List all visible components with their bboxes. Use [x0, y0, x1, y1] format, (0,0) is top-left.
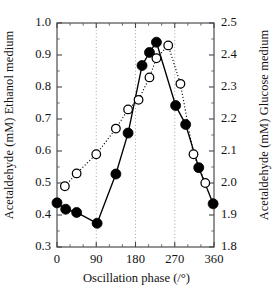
data-point-2	[164, 41, 173, 50]
data-point-1	[52, 198, 62, 208]
x-tick-label: 180	[121, 252, 151, 267]
data-point-1	[123, 128, 133, 138]
data-point-2	[201, 179, 210, 188]
data-point-1	[151, 37, 161, 47]
y-tick-label-right: 2.0	[221, 175, 251, 190]
data-point-2	[145, 73, 154, 82]
y-tick-label-left: 0.7	[21, 111, 51, 126]
y-tick-label-left: 0.5	[21, 175, 51, 190]
x-tick-label: 270	[160, 252, 190, 267]
y-tick-label-right: 2.4	[221, 47, 251, 62]
data-point-2	[72, 169, 81, 178]
data-point-1	[72, 207, 82, 217]
y-tick-label-left: 0.9	[21, 47, 51, 62]
x-tick-label: 90	[81, 252, 111, 267]
data-point-2	[152, 54, 161, 63]
y-tick-label-right: 1.9	[221, 207, 251, 222]
data-point-1	[111, 169, 121, 179]
series-line-2	[65, 45, 205, 186]
data-point-1	[92, 218, 102, 228]
data-point-1	[194, 163, 204, 173]
chart-figure: Acetaldehyde (mM) Ethanol medium Acetald…	[0, 0, 273, 297]
data-point-2	[124, 105, 133, 114]
y-tick-label-right: 2.2	[221, 111, 251, 126]
data-point-2	[134, 96, 143, 105]
x-tick-label: 360	[199, 252, 229, 267]
data-point-2	[112, 124, 121, 133]
data-point-1	[181, 119, 191, 129]
y-tick-label-left: 0.6	[21, 143, 51, 158]
y-tick-label-right: 2.3	[221, 79, 251, 94]
y-tick-label-left: 0.4	[21, 207, 51, 222]
data-point-1	[208, 199, 218, 209]
data-point-2	[189, 150, 198, 159]
y-tick-label-left: 0.8	[21, 79, 51, 94]
y-tick-label-right: 2.5	[221, 15, 251, 30]
data-point-2	[92, 150, 101, 159]
y-tick-label-left: 1.0	[21, 15, 51, 30]
data-point-1	[137, 61, 147, 71]
data-point-2	[61, 182, 70, 191]
x-tick-label: 0	[42, 252, 72, 267]
data-point-1	[61, 204, 71, 214]
data-point-2	[176, 80, 185, 89]
y-tick-label-right: 2.1	[221, 143, 251, 158]
data-point-1	[171, 101, 181, 111]
